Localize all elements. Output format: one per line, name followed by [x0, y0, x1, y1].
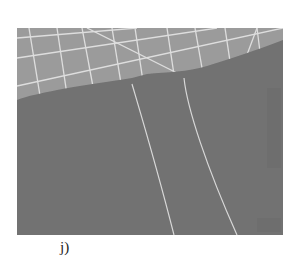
panel-label: j): [60, 238, 69, 256]
figure-panel-image: [17, 28, 283, 235]
photo-illustration: [17, 28, 283, 235]
